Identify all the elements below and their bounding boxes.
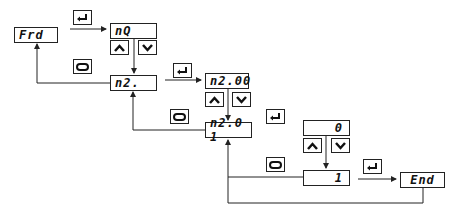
display-n200: n2.00 [205,73,249,89]
chevron-down-icon [335,142,346,150]
up-key-2[interactable] [205,92,224,107]
enter-icon [176,66,189,75]
enter-icon [76,13,89,22]
enter-key-1[interactable] [73,10,92,25]
loop-icon [76,63,89,71]
display-n201: n2.0 1 [205,122,252,138]
display-frd-text: Frd [19,28,44,42]
enter-key-4[interactable] [363,159,382,174]
up-key-1[interactable] [110,40,129,55]
chevron-down-icon [236,96,247,104]
arrow-n201-to-n2 [133,92,205,130]
down-key-1[interactable] [138,40,157,55]
display-n201-text: n2.0 1 [210,116,251,144]
enter-icon [366,162,379,171]
loop-icon [269,161,282,169]
down-key-2[interactable] [232,92,251,107]
loop-key-1[interactable] [73,59,92,74]
flow-lines [0,0,456,213]
display-nq-text: nQ [115,24,131,38]
chevron-down-icon [142,44,153,52]
loop-icon [173,113,186,121]
up-key-3[interactable] [303,138,322,153]
display-nq: nQ [110,23,157,39]
loop-key-2[interactable] [170,109,189,124]
display-zero: 0 [303,120,350,136]
enter-icon [269,112,282,121]
chevron-up-icon [114,44,125,52]
loop-key-3[interactable] [266,157,285,172]
display-n2: n2. [110,75,157,91]
display-zero-text: 0 [335,121,343,135]
display-one: 1 [303,170,350,186]
chevron-up-icon [209,96,220,104]
chevron-up-icon [307,142,318,150]
display-frd: Frd [14,27,58,43]
down-key-3[interactable] [331,138,350,153]
display-end: End [400,172,445,188]
enter-key-3[interactable] [266,109,285,124]
display-end-text: End [410,173,435,187]
display-one-text: 1 [335,171,343,185]
display-n200-text: n2.00 [210,74,251,88]
display-n2-text: n2. [115,76,140,90]
enter-key-2[interactable] [173,63,192,78]
